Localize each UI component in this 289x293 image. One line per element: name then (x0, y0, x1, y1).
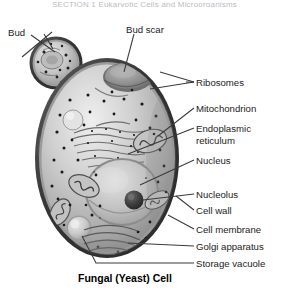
mother-cell (33, 58, 190, 284)
storage-vacuole (67, 216, 92, 241)
label-storage-vacuole: Storage vacuole (196, 258, 265, 269)
label-cell-wall: Cell wall (196, 205, 232, 216)
label-bud-scar: Bud scar (126, 24, 164, 35)
label-golgi: Golgi apparatus (196, 241, 264, 252)
leader-ribosomes-a (160, 72, 194, 82)
nucleolus (125, 191, 144, 210)
label-mitochondrion: Mitochondrion (196, 103, 256, 114)
label-endoplasmic: Endoplasmic (196, 123, 251, 134)
label-cell-membrane: Cell membrane (196, 224, 261, 235)
figure-caption: Fungal (Yeast) Cell (78, 272, 172, 284)
leader-cell-membrane (168, 215, 194, 229)
label-nucleolus: Nucleolus (196, 189, 238, 200)
label-bud: Bud (8, 27, 25, 38)
leader-ribosomes-b (150, 82, 194, 89)
label-nucleus: Nucleus (196, 155, 231, 166)
label-reticulum: reticulum (196, 135, 235, 146)
vesicle-upper (63, 110, 83, 130)
label-ribosomes: Ribosomes (196, 77, 244, 88)
figure-container: SECTION 1 Eukaryotic Cells and Microorga… (0, 0, 289, 293)
leader-cell-wall (176, 196, 194, 210)
